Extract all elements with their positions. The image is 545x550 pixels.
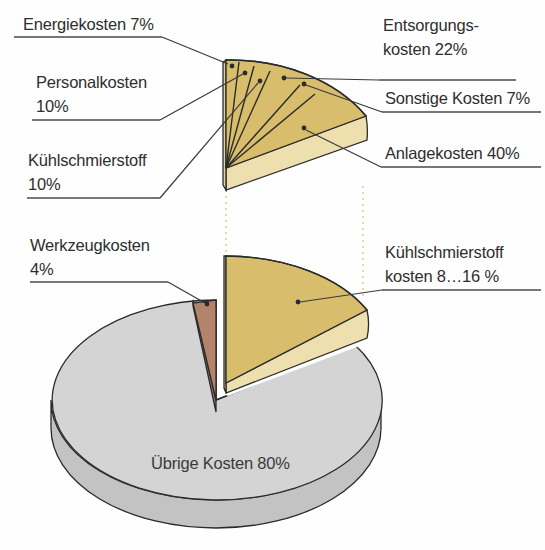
label-personalkosten-line1: Personalkosten <box>36 73 147 91</box>
dot-kuehlschmierstoff-top <box>258 79 263 84</box>
label-entsorgungskosten-line2: kosten 22% <box>383 40 468 58</box>
label-energiekosten: Energiekosten 7% <box>23 15 154 33</box>
label-kuehlschmierstoff-kosten-line1: Kühlschmierstoff <box>385 243 504 261</box>
label-werkzeugkosten-line1: Werkzeugkosten <box>30 236 150 254</box>
label-anlagekosten: Anlagekosten 40% <box>385 144 520 162</box>
pie-chart-figure: Energiekosten 7% Personalkosten 10% Kühl… <box>0 0 545 550</box>
label-uebrige-kosten: Übrige Kosten 80% <box>151 454 290 472</box>
dot-entsorgungskosten <box>282 76 287 81</box>
figure-root: Energiekosten 7% Personalkosten 10% Kühl… <box>0 0 545 550</box>
leader-werkzeugkosten <box>168 282 205 303</box>
label-werkzeugkosten-line2: 4% <box>30 260 54 278</box>
leader-energiekosten <box>162 37 228 64</box>
dot-anlagekosten <box>302 126 307 131</box>
label-personalkosten-line2: 10% <box>36 97 69 115</box>
dot-sonstige-kosten <box>302 82 307 87</box>
label-kuehlschmierstoff-top-line1: Kühlschmierstoff <box>28 151 147 169</box>
label-kuehlschmierstoff-top-line2: 10% <box>28 175 61 193</box>
label-entsorgungskosten-line1: Entsorgungs- <box>383 16 479 34</box>
label-sonstige-kosten: Sonstige Kosten 7% <box>385 89 531 107</box>
dot-kuehlschmierstoff-kosten <box>296 300 301 305</box>
label-kuehlschmierstoff-kosten-line2: kosten 8…16 % <box>385 267 499 285</box>
dot-personalkosten <box>243 71 248 76</box>
dot-energiekosten <box>230 64 235 69</box>
dot-werkzeugkosten <box>205 302 210 307</box>
